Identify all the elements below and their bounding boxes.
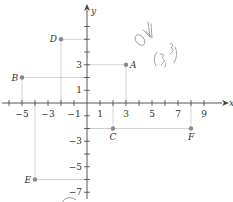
x-tick-label: 5 bbox=[149, 109, 155, 119]
partial-circle-mark bbox=[62, 197, 76, 202]
point-c bbox=[111, 126, 115, 130]
point-d bbox=[59, 37, 63, 41]
x-axis-arrow-icon bbox=[222, 100, 229, 106]
y-axis-arrow-icon bbox=[84, 4, 90, 11]
y-tick-label: −5 bbox=[69, 162, 83, 172]
point-label-e: E bbox=[23, 175, 31, 185]
point-label-a: A bbox=[129, 60, 137, 70]
x-tick-label: 1 bbox=[97, 109, 103, 119]
axes: xy bbox=[2, 4, 233, 199]
x-tick-label: −1 bbox=[67, 109, 80, 119]
handwritten-coordinate bbox=[154, 44, 177, 67]
point-label-c: C bbox=[110, 132, 117, 142]
handwritten-annotations bbox=[133, 22, 177, 67]
y-tick-label: −7 bbox=[69, 187, 83, 197]
point-e bbox=[33, 177, 37, 181]
x-tick-label: 9 bbox=[201, 109, 207, 119]
y-tick-label: 1 bbox=[76, 85, 82, 95]
coordinate-plane: xy −5−3−11357931−3−5−7 ABCDEF bbox=[0, 0, 233, 202]
point-b bbox=[20, 75, 24, 79]
y-tick-label: 3 bbox=[76, 60, 82, 70]
point-f bbox=[189, 126, 193, 130]
point-label-b: B bbox=[10, 73, 18, 83]
x-tick-label: 3 bbox=[123, 109, 129, 119]
point-label-f: F bbox=[187, 132, 195, 142]
x-tick-label: −3 bbox=[41, 109, 55, 119]
x-axis-label: x bbox=[229, 98, 233, 108]
y-axis-label: y bbox=[90, 6, 97, 16]
point-a bbox=[124, 63, 128, 67]
x-tick-label: 7 bbox=[175, 109, 181, 119]
handwritten-ok-mark bbox=[133, 22, 152, 47]
y-tick-label: −3 bbox=[69, 136, 83, 146]
x-tick-label: −5 bbox=[15, 109, 29, 119]
point-label-d: D bbox=[49, 34, 57, 44]
